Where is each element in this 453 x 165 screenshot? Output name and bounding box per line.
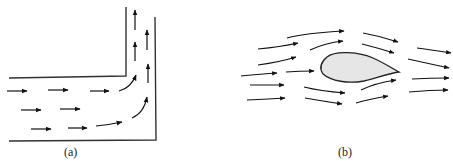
- panel-b-diagram: [241, 31, 451, 104]
- flow-arrows-row-2: [21, 97, 147, 118]
- panel-a-diagram: [7, 7, 156, 141]
- flow-arrows-row-3: [31, 122, 122, 129]
- flow-arrows-vertical: [135, 10, 148, 83]
- airfoil-body: [321, 53, 399, 83]
- inner-wall: [9, 7, 126, 78]
- panel-b-label: (b): [338, 145, 352, 160]
- panel-a-label: (a): [64, 145, 77, 160]
- figure-canvas: [0, 0, 453, 165]
